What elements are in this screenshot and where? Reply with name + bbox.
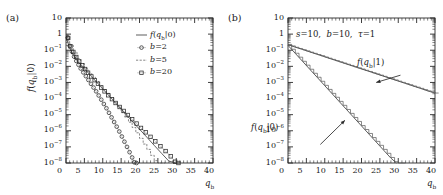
x-tick-label-a-8: 40	[204, 166, 214, 175]
legend-label-2: b=5	[150, 55, 167, 64]
legend-label-0: f(qb|0)	[150, 30, 176, 39]
legend-entry-1	[137, 46, 146, 50]
panel-a: (a) f(qb|0) qb 051015202530354010110−110…	[0, 0, 221, 195]
panel-a-label: (a)	[6, 12, 19, 23]
figure-root: (a) f(qb|0) qb 051015202530354010110−110…	[0, 0, 443, 195]
y-tick-label-a--4: 10−4	[26, 93, 62, 102]
annotation-arrow-1	[320, 120, 345, 144]
y-tick-label-a--6: 10−6	[26, 125, 62, 134]
x-tick-label-b-5: 25	[371, 166, 381, 175]
y-tick-label-a-1: 10	[26, 13, 62, 22]
y-tick-label-b--5: 10−5	[248, 109, 284, 118]
y-tick-label-b--4: 10−4	[248, 93, 284, 102]
y-tick-label-b--7: 10−7	[248, 141, 284, 150]
panel-b: (b) s=10, b=10, τ=1 f(qb|1) f(qb|0) qb 0…	[222, 0, 443, 195]
y-tick-label-b--3: 10−3	[248, 77, 284, 86]
x-tick-label-b-6: 30	[389, 166, 399, 175]
y-tick-label-a--5: 10−5	[26, 109, 62, 118]
annotation-arrow-0	[376, 75, 400, 83]
y-tick-label-a--3: 10−3	[26, 77, 62, 86]
x-tick-label-a-4: 20	[131, 166, 141, 175]
x-tick-label-b-1: 5	[297, 166, 302, 175]
y-tick-label-a--1: 10−1	[26, 45, 62, 54]
y-tick-label-b-0: 1	[248, 29, 284, 38]
x-tick-label-b-8: 40	[426, 166, 436, 175]
y-tick-label-a--2: 10−2	[26, 61, 62, 70]
y-tick-label-a--7: 10−7	[26, 141, 62, 150]
panel-b-x-axis-label: qb	[427, 178, 436, 188]
y-tick-label-a-0: 1	[26, 29, 62, 38]
panel-b-annotation-f-q-given-1: f(qb|1)	[357, 57, 384, 67]
legend-entry-3	[137, 71, 146, 75]
y-tick-label-b-1: 10	[248, 13, 284, 22]
y-tick-label-a--8: 10−8	[26, 158, 62, 167]
x-tick-label-b-2: 10	[316, 166, 326, 175]
x-tick-label-a-2: 10	[94, 166, 104, 175]
x-tick-label-b-7: 35	[408, 166, 418, 175]
x-tick-label-b-3: 15	[334, 166, 344, 175]
panel-b-label: (b)	[228, 12, 242, 23]
x-tick-label-a-0: 0	[57, 166, 62, 175]
x-tick-label-b-4: 20	[353, 166, 363, 175]
y-tick-label-b--2: 10−2	[248, 61, 284, 70]
x-tick-label-a-3: 15	[112, 166, 122, 175]
y-tick-label-b--1: 10−1	[248, 45, 284, 54]
x-tick-label-a-6: 30	[167, 166, 177, 175]
x-tick-label-a-1: 5	[75, 166, 80, 175]
x-tick-label-b-0: 0	[279, 166, 284, 175]
legend-label-3: b=20	[150, 67, 172, 76]
y-tick-label-b--6: 10−6	[248, 125, 284, 134]
y-tick-label-b--8: 10−8	[248, 158, 284, 167]
legend-label-1: b=2	[150, 42, 167, 51]
x-tick-label-a-5: 25	[149, 166, 159, 175]
panel-a-x-axis-label: qb	[205, 178, 214, 188]
x-tick-label-a-7: 35	[186, 166, 196, 175]
panel-b-parameters-annotation: s=10, b=10, τ=1	[296, 29, 375, 39]
